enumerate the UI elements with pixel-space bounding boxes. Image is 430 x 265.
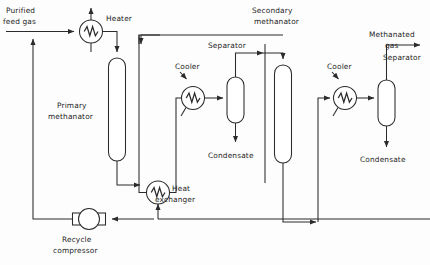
equipment-heater xyxy=(80,8,103,52)
separator-right-body xyxy=(378,80,395,126)
cooler-right-tail xyxy=(333,108,338,117)
label-condensate-right: Condensate xyxy=(360,155,406,164)
equipment-secondary-methanator xyxy=(275,65,292,163)
secondary-feed-top xyxy=(263,53,283,59)
label-heat-exchanger-line1: Heat xyxy=(172,184,190,193)
separator-left-body xyxy=(227,77,244,123)
label-cooler-right: Cooler xyxy=(327,62,353,71)
stream-primary-methanator-to-heat-exchanger xyxy=(117,161,140,185)
label-primary-methanator-line1: Primary xyxy=(57,101,87,110)
cooler-left-tail xyxy=(181,108,186,117)
process-flow-diagram: Purified feed gas Heater Primary methana… xyxy=(0,0,430,265)
equipment-separator-right xyxy=(378,80,395,126)
equipment-cooler-right xyxy=(332,72,357,116)
stream-secondary-methanator-outlet xyxy=(283,163,316,222)
pfd-canvas: Purified feed gas Heater Primary methana… xyxy=(0,0,430,265)
equipment-separator-left xyxy=(227,77,244,123)
label-heater: Heater xyxy=(106,14,133,23)
label-separator-right: Separator xyxy=(383,53,422,62)
primary-methanator-body xyxy=(109,58,126,161)
stream-separator-left-overhead xyxy=(236,53,264,77)
label-condensate-left: Condensate xyxy=(208,151,254,160)
label-recycle-compressor-line2: compressor xyxy=(53,246,98,255)
secondary-methanator-body xyxy=(275,65,292,163)
equipment-primary-methanator xyxy=(109,58,126,161)
label-methanated-gas-line1: Methanated xyxy=(369,30,415,39)
label-recycle-compressor-line1: Recycle xyxy=(62,235,92,244)
stream-heat-exchanger-hot-outlet xyxy=(139,35,160,193)
label-secondary-methanator-line1: Secondary xyxy=(252,6,293,15)
equipment-recycle-compressor xyxy=(73,209,106,230)
equipment-cooler-left xyxy=(180,72,205,116)
cooler-right-leader xyxy=(332,72,339,79)
label-methanated-gas-line2: gas xyxy=(385,41,399,50)
label-separator-left: Separator xyxy=(208,41,247,50)
label-heat-exchanger-line2: exchanger xyxy=(155,195,196,204)
label-primary-methanator-line2: methanator xyxy=(48,112,94,121)
stream-recycle-to-feed xyxy=(33,39,73,219)
diagram-labels: Purified feed gas Heater Primary methana… xyxy=(3,6,422,255)
label-cooler-left: Cooler xyxy=(175,62,201,71)
hx-hot-outlet-path xyxy=(139,35,160,193)
cooler-left-leader xyxy=(180,72,187,79)
label-secondary-methanator-line2: methanator xyxy=(254,17,300,26)
recycle-compressor-body xyxy=(79,209,100,230)
label-purified-feed-gas-line2: feed gas xyxy=(3,17,36,26)
stream-to-cooler-right xyxy=(318,98,330,222)
label-purified-feed-gas-line1: Purified xyxy=(6,6,35,15)
stream-heater-to-primary-methanator xyxy=(103,32,118,53)
stream-methanated-gas xyxy=(387,45,421,80)
